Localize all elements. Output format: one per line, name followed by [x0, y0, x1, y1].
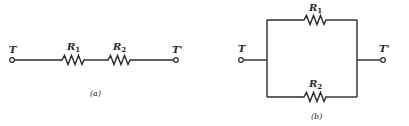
terminal-t-prime-b-icon: [381, 58, 386, 63]
resistor-r2-b-label: R2: [308, 78, 322, 91]
terminal-label-t-prime-a: T': [172, 44, 183, 55]
terminal-label-t-a: T: [9, 44, 18, 55]
resistor-r2-b-icon: [302, 93, 327, 102]
circuit-diagrams: T R1 R2 T' (a) T: [0, 0, 409, 126]
terminal-label-t-b: T: [238, 43, 247, 54]
resistor-r1-a-icon: [60, 56, 85, 65]
parallel-circuit-b: T R1 R2 T' (b): [238, 2, 390, 121]
caption-b: (b): [311, 112, 322, 121]
resistor-r2-a-label: R2: [112, 41, 126, 54]
resistor-r1-a-label: R1: [66, 41, 80, 54]
terminal-t-b-icon: [239, 58, 244, 63]
series-circuit-a: T R1 R2 T' (a): [9, 41, 183, 98]
resistor-r2-a-icon: [106, 56, 131, 65]
terminal-label-t-prime-b: T': [379, 43, 390, 54]
resistor-r1-b-label: R1: [308, 2, 322, 15]
resistor-r1-b-icon: [302, 16, 327, 25]
terminal-t-a-icon: [10, 58, 15, 63]
caption-a: (a): [90, 89, 101, 98]
terminal-t-prime-a-icon: [174, 58, 179, 63]
